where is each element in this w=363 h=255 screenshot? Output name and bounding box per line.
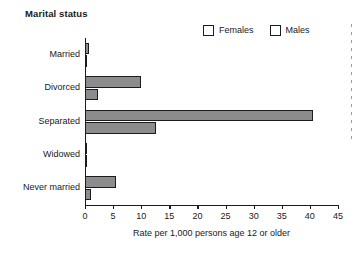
x-tick-label-40: 40	[298, 212, 322, 221]
legend-label-females: Females	[219, 26, 254, 35]
x-tick-label-0: 0	[73, 212, 97, 221]
bar-divorced-females	[85, 76, 141, 88]
legend-label-males: Males	[286, 26, 310, 35]
x-tick-label-5: 5	[101, 212, 125, 221]
category-label-never-married: Never married	[23, 183, 80, 192]
chart-title: Marital status	[25, 8, 88, 19]
legend-item-males: Males	[270, 25, 310, 36]
legend-item-females: Females	[203, 25, 254, 36]
x-axis-title: Rate per 1,000 persons age 12 or older	[85, 228, 338, 238]
x-tick-25	[226, 205, 227, 209]
x-tick-45	[338, 205, 339, 209]
x-tick-label-30: 30	[242, 212, 266, 221]
x-axis-line	[85, 205, 338, 206]
category-label-married: Married	[49, 50, 80, 59]
x-tick-40	[310, 205, 311, 209]
x-tick-label-45: 45	[326, 212, 350, 221]
legend-swatch-females	[203, 25, 214, 36]
x-tick-label-35: 35	[270, 212, 294, 221]
x-tick-label-10: 10	[129, 212, 153, 221]
x-tick-5	[113, 205, 114, 209]
bar-never-married-males	[85, 189, 91, 201]
legend-swatch-males	[270, 25, 281, 36]
bar-separated-females	[85, 110, 313, 122]
category-label-divorced: Divorced	[44, 83, 80, 92]
x-tick-label-25: 25	[214, 212, 238, 221]
chart-legend: Females Males	[203, 25, 310, 36]
bar-married-females	[85, 43, 89, 55]
category-label-widowed: Widowed	[43, 150, 80, 159]
x-tick-15	[169, 205, 170, 209]
x-tick-10	[141, 205, 142, 209]
scan-artifact	[351, 24, 352, 139]
bar-widowed-females	[85, 143, 87, 155]
x-tick-label-20: 20	[185, 212, 209, 221]
chart-figure: Marital status Females Males 05101520253…	[0, 0, 363, 255]
bar-separated-males	[85, 122, 156, 134]
bar-never-married-females	[85, 176, 116, 188]
category-label-separated: Separated	[38, 117, 80, 126]
x-tick-label-15: 15	[157, 212, 181, 221]
x-tick-0	[85, 205, 86, 209]
bar-divorced-males	[85, 89, 98, 101]
bar-widowed-males	[85, 155, 87, 167]
x-tick-35	[282, 205, 283, 209]
x-tick-20	[197, 205, 198, 209]
bar-married-males	[85, 55, 87, 67]
x-tick-30	[254, 205, 255, 209]
plot-area: 051015202530354045	[85, 38, 338, 205]
